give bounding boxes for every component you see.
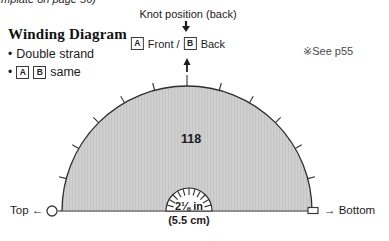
top-end-label: Top ← <box>10 204 43 216</box>
size-cm-label: (5.5 cm) <box>166 214 212 226</box>
bottom-end-marker <box>308 208 318 214</box>
bottom-end-label: → Bottom <box>324 204 375 216</box>
size-inches-label: 2⅛ in <box>175 200 203 212</box>
wrap-count: 118 <box>181 132 201 146</box>
down-arrow-icon <box>182 21 190 32</box>
winding-diagram-page: emplate on page 56) Winding Diagram • Do… <box>0 0 389 241</box>
top-end-marker <box>47 206 57 216</box>
up-arrow-icon <box>184 58 191 86</box>
